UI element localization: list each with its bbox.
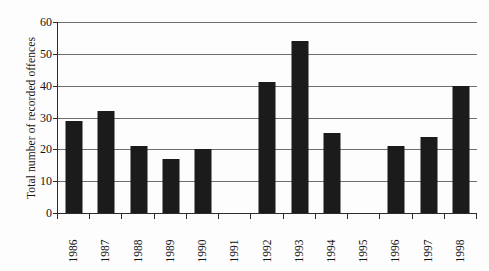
plot-area	[57, 22, 476, 213]
bar	[130, 146, 147, 213]
bar	[98, 111, 115, 213]
x-tick-mark	[379, 213, 380, 219]
x-tick-mark	[121, 213, 122, 219]
y-tick-label-0: 0	[24, 207, 52, 219]
y-tick-label-60: 60	[24, 16, 52, 28]
x-tick-mark	[444, 213, 445, 219]
x-tick-mark	[347, 213, 348, 219]
bar-slot	[380, 22, 412, 213]
bar	[452, 86, 469, 213]
x-tick-label-1998: 1998	[454, 228, 466, 271]
bar	[323, 133, 340, 213]
x-tick-mark	[250, 213, 251, 219]
y-tick-label-50: 50	[24, 48, 52, 60]
bar-slot	[58, 22, 90, 213]
y-tick-label-20: 20	[24, 143, 52, 155]
y-axis-tick-labels: 0102030405060	[24, 0, 52, 271]
x-tick-mark	[476, 213, 477, 219]
x-tick-mark	[89, 213, 90, 219]
x-tick-label-1996: 1996	[389, 228, 401, 271]
bar-slot	[219, 22, 251, 213]
bar-slot	[187, 22, 219, 213]
bar-slot	[122, 22, 154, 213]
bar-slot	[316, 22, 348, 213]
y-tick-label-40: 40	[24, 80, 52, 92]
x-tick-mark	[186, 213, 187, 219]
x-tick-label-1989: 1989	[164, 228, 176, 271]
x-tick-label-1993: 1993	[293, 228, 305, 271]
x-tick-label-1992: 1992	[261, 228, 273, 271]
x-tick-label-1990: 1990	[196, 228, 208, 271]
x-tick-label-1988: 1988	[132, 228, 144, 271]
x-tick-label-1997: 1997	[422, 228, 434, 271]
x-tick-label-1986: 1986	[67, 228, 79, 271]
y-tick-label-10: 10	[24, 175, 52, 187]
x-tick-mark	[283, 213, 284, 219]
x-tick-label-1991: 1991	[228, 228, 240, 271]
bars-layer	[58, 22, 477, 213]
bar	[420, 137, 437, 213]
bar	[162, 159, 179, 213]
bar	[195, 149, 212, 213]
bar	[388, 146, 405, 213]
bar-slot	[90, 22, 122, 213]
bar	[291, 41, 308, 213]
y-tick-label-30: 30	[24, 112, 52, 124]
x-tick-mark	[412, 213, 413, 219]
x-tick-label-1987: 1987	[99, 228, 111, 271]
bar-slot	[155, 22, 187, 213]
bar-slot	[251, 22, 283, 213]
bar	[66, 121, 83, 213]
x-tick-mark	[57, 213, 58, 219]
bar-slot	[413, 22, 445, 213]
x-tick-mark	[218, 213, 219, 219]
bar-slot	[284, 22, 316, 213]
x-tick-mark	[154, 213, 155, 219]
bar-slot	[348, 22, 380, 213]
x-axis: 1986198719881989199019911992199319941995…	[57, 213, 476, 271]
x-tick-label-1995: 1995	[357, 228, 369, 271]
bar	[259, 82, 276, 213]
bar-slot	[445, 22, 477, 213]
x-tick-label-1994: 1994	[325, 228, 337, 271]
bar-chart-figure: Total number of recorded offences 010203…	[0, 0, 489, 271]
x-tick-mark	[315, 213, 316, 219]
